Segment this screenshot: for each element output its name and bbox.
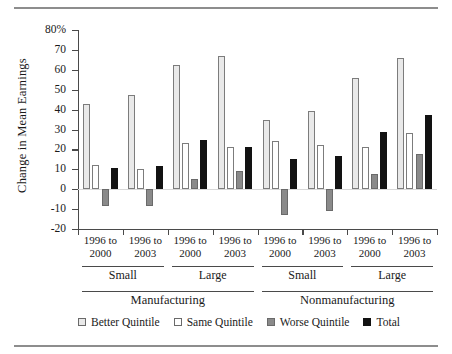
- legend-label: Worse Quintile: [280, 316, 350, 328]
- y-axis-title: Change in Mean Earnings: [15, 41, 30, 211]
- y-tick-label: 0: [32, 183, 66, 195]
- bar-worse-quintile: [191, 179, 198, 189]
- bar-total: [290, 159, 297, 189]
- bar-total: [156, 166, 163, 189]
- legend-label: Same Quintile: [187, 316, 253, 328]
- bar-same-quintile: [272, 141, 279, 189]
- same-quintile-swatch: [174, 318, 182, 326]
- bar-same-quintile: [182, 143, 189, 189]
- y-tick-label: 30: [32, 124, 66, 136]
- y-tick-label: 50: [32, 84, 66, 96]
- bar-worse-quintile: [146, 189, 153, 206]
- y-tick-label: 20: [32, 143, 66, 155]
- bar-worse-quintile: [326, 189, 333, 211]
- total-swatch: [363, 318, 371, 326]
- y-tick-label: 10: [32, 163, 66, 175]
- chart-figure: Change in Mean Earnings 80%7060504030201…: [0, 0, 452, 354]
- group-bracket: [351, 266, 433, 267]
- bar-worse-quintile: [371, 174, 378, 189]
- group-bracket: [262, 266, 344, 267]
- y-tick-label: 60: [32, 64, 66, 76]
- bar-same-quintile: [227, 147, 234, 189]
- legend-item: Same Quintile: [174, 316, 253, 328]
- bar-total: [380, 132, 387, 189]
- bottom-rule: [14, 345, 438, 347]
- group-label-large: Large: [168, 268, 258, 283]
- bar-same-quintile: [362, 147, 369, 189]
- bar-better-quintile: [173, 65, 180, 189]
- legend-label: Total: [376, 316, 399, 328]
- section-bracket: [262, 291, 434, 292]
- bar-worse-quintile: [236, 171, 243, 189]
- y-tick-label: 80%: [32, 24, 66, 36]
- legend-item: Total: [363, 316, 399, 328]
- top-rule: [14, 7, 438, 9]
- x-tick-label: 1996 to2003: [387, 234, 443, 259]
- y-tick-label: -10: [32, 203, 66, 215]
- bar-total: [245, 147, 252, 189]
- group-label-small: Small: [257, 268, 347, 283]
- bar-better-quintile: [352, 78, 359, 189]
- bar-better-quintile: [218, 56, 225, 189]
- bar-worse-quintile: [416, 154, 423, 189]
- legend-item: Better Quintile: [78, 316, 160, 328]
- plot-area: [78, 30, 437, 229]
- group-bracket: [172, 266, 254, 267]
- bar-better-quintile: [128, 95, 135, 190]
- group-bracket: [82, 266, 164, 267]
- bar-same-quintile: [92, 165, 99, 189]
- legend-label: Better Quintile: [91, 316, 160, 328]
- bar-total: [200, 140, 207, 189]
- bar-total: [335, 156, 342, 189]
- y-tick-label: -20: [32, 223, 66, 235]
- bar-worse-quintile: [281, 189, 288, 215]
- group-label-small: Small: [78, 268, 168, 283]
- y-tick-label: 70: [32, 44, 66, 56]
- bar-better-quintile: [263, 120, 270, 190]
- group-label-large: Large: [347, 268, 437, 283]
- section-label-manufacturing: Manufacturing: [93, 293, 243, 308]
- bar-better-quintile: [83, 104, 90, 190]
- section-bracket: [82, 291, 254, 292]
- better-quintile-swatch: [78, 318, 86, 326]
- worse-quintile-swatch: [267, 318, 275, 326]
- bar-same-quintile: [406, 133, 413, 189]
- bar-total: [111, 168, 118, 189]
- bar-better-quintile: [397, 58, 404, 189]
- chart-legend: Better QuintileSame QuintileWorse Quinti…: [78, 316, 438, 328]
- y-tick-label: 40: [32, 104, 66, 116]
- bar-total: [425, 115, 432, 190]
- legend-item: Worse Quintile: [267, 316, 350, 328]
- bar-same-quintile: [137, 169, 144, 189]
- bar-worse-quintile: [102, 189, 109, 206]
- bar-same-quintile: [317, 145, 324, 189]
- section-label-nonmanufacturing: Nonmanufacturing: [272, 293, 422, 308]
- bar-better-quintile: [308, 111, 315, 190]
